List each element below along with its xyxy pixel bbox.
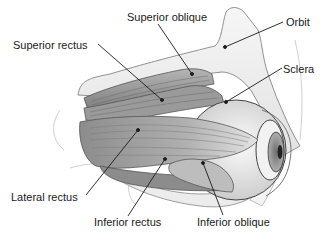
label-orbit: Orbit — [286, 16, 310, 28]
label-inferior-rectus: Inferior rectus — [94, 216, 161, 228]
label-superior-oblique: Superior oblique — [127, 11, 207, 23]
eye-muscle-diagram — [0, 0, 331, 245]
label-lateral-rectus: Lateral rectus — [11, 191, 78, 203]
label-inferior-oblique: Inferior oblique — [197, 216, 270, 228]
label-superior-rectus: Superior rectus — [13, 39, 88, 51]
label-sclera: Sclera — [283, 63, 314, 75]
cornea-iris — [256, 120, 284, 180]
